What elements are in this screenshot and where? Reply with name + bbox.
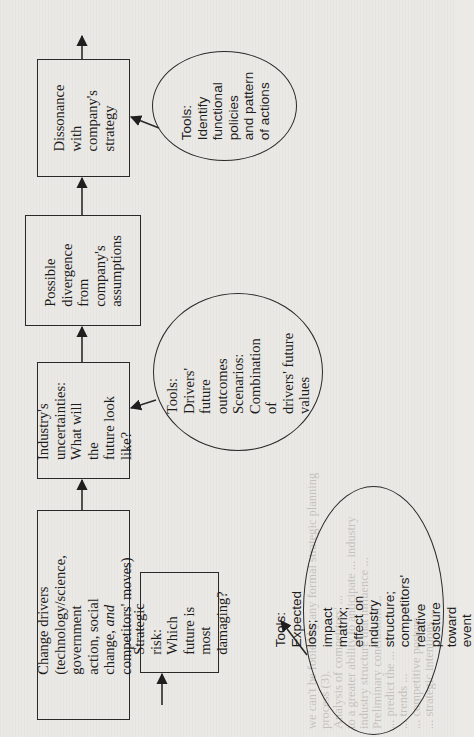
ellipse-tools-strategic-risk: Tools: Expected loss; impact matrix; eff… (303, 486, 444, 735)
ellipse-tools-uncertainties-label: Tools: Drivers' future outcomes Scenario… (164, 330, 313, 414)
box-change-drivers: Change drivers (technology/science, gove… (37, 510, 130, 720)
ellipse-tools-dissonance: Tools: Identify functional policies and … (152, 51, 297, 161)
change-drivers-italic-text: and (100, 605, 116, 627)
box-industry-uncertainties-label: Industry's uncertainties: What will the … (34, 381, 133, 459)
ellipse-tools-dissonance-label: Tools: Identify functional policies and … (178, 72, 271, 140)
ellipse-tools-uncertainties: Tools: Drivers' future outcomes Scenario… (153, 293, 323, 451)
box-possible-divergence: Possible divergence from company's assum… (25, 215, 141, 326)
box-possible-divergence-label: Possible divergence from company's assum… (42, 235, 125, 307)
box-strategic-risk-label: Strategic risk: Which future is most dam… (130, 591, 229, 655)
box-dissonance-label: Dissonance with company's strategy (51, 85, 117, 152)
box-change-drivers-label: Change drivers (technology/science, gove… (34, 555, 133, 675)
arrow-tools-to-uncertainties (131, 400, 156, 408)
box-strategic-risk: Strategic risk: Which future is most dam… (140, 572, 219, 673)
ellipse-tools-strategic-risk-label: Tools: Expected loss; impact matrix; eff… (273, 574, 474, 646)
box-dissonance: Dissonance with company's strategy (37, 59, 130, 177)
box-industry-uncertainties: Industry's uncertainties: What will the … (37, 362, 130, 479)
